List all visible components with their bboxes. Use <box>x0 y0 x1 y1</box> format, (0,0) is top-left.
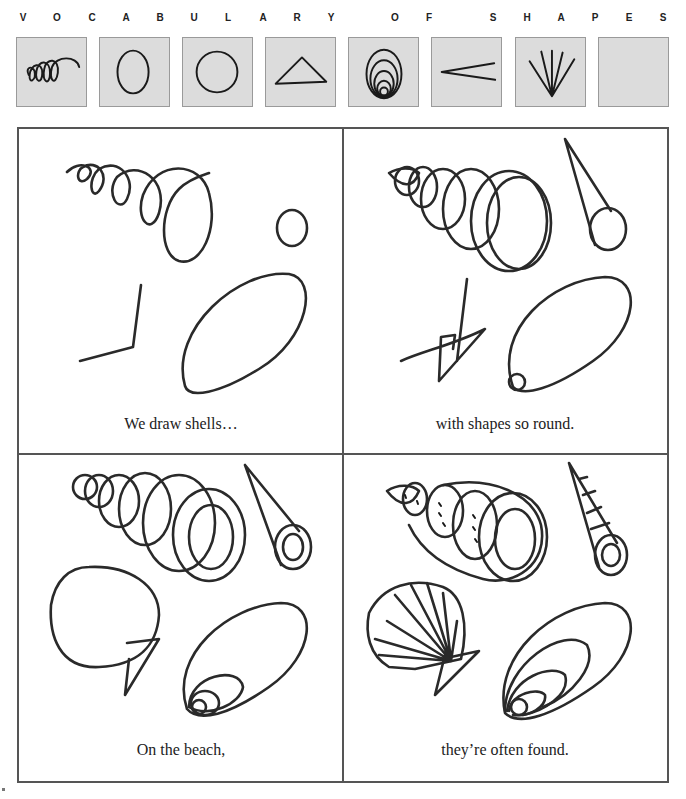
angle-lines-icon <box>432 38 501 106</box>
shell-sketch-step-3 <box>19 455 343 781</box>
panel-caption: they’re often found. <box>343 741 667 759</box>
title-letter: A <box>116 12 136 23</box>
panel-step-3: On the beach, <box>19 455 343 781</box>
title-letter: A <box>551 12 571 23</box>
title-letter: S <box>653 12 673 23</box>
title-letter: U <box>184 12 204 23</box>
vocab-box-nested-ovals <box>348 37 419 107</box>
triangle-icon <box>266 38 335 106</box>
title-letter: R <box>287 12 307 23</box>
panel-step-1: We draw shells… <box>19 129 343 455</box>
vocab-box-triangle <box>265 37 336 107</box>
panel-step-2: with shapes so round. <box>343 129 667 455</box>
panel-caption: with shapes so round. <box>343 415 667 433</box>
title-letter: C <box>82 12 102 23</box>
shell-sketch-step-2 <box>343 129 667 455</box>
vocabulary-title: V O C A B U L A R Y O F S H A P E S <box>0 12 686 32</box>
page-speck <box>2 788 5 791</box>
drawing-steps-grid: We draw shells… with shapes so round. <box>17 127 669 783</box>
vocab-box-circle <box>182 37 253 107</box>
panel-caption: We draw shells… <box>19 415 343 433</box>
vocab-box-fan-lines <box>515 37 586 107</box>
nested-ovals-icon <box>349 38 418 106</box>
title-letter: A <box>253 12 273 23</box>
oval-icon <box>100 38 169 106</box>
vocab-box-angle-lines <box>431 37 502 107</box>
vocab-box-spiral <box>16 37 87 107</box>
title-letter: B <box>150 12 170 23</box>
title-letter: H <box>517 12 537 23</box>
panel-step-4: they’re often found. <box>343 455 667 781</box>
fan-lines-icon <box>516 38 585 106</box>
title-letter: S <box>483 12 503 23</box>
shell-sketch-step-1 <box>19 129 343 455</box>
vocab-box-oval <box>99 37 170 107</box>
title-letter: L <box>218 12 238 23</box>
title-letter: O <box>47 12 67 23</box>
panel-caption: On the beach, <box>19 741 343 759</box>
title-letter: O <box>385 12 405 23</box>
title-letter: P <box>585 12 605 23</box>
title-letter: Y <box>321 12 341 23</box>
title-letter: F <box>419 12 439 23</box>
spiral-icon <box>17 38 86 106</box>
title-letter: E <box>619 12 639 23</box>
shell-sketch-step-4 <box>343 455 667 781</box>
circle-icon <box>183 38 252 106</box>
vocab-box-blank <box>598 37 669 107</box>
title-letter: V <box>13 12 33 23</box>
